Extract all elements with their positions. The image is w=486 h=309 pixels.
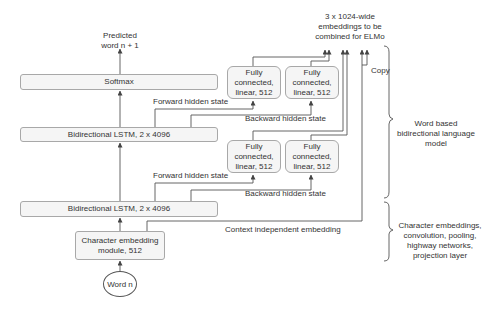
input-word-node: Word n: [103, 271, 137, 297]
bilstm-top-layer: Bidirectional LSTM, 2 x 4096: [20, 127, 218, 142]
fc-top-right-label: Fully connected, linear, 512: [289, 68, 335, 98]
softmax-layer: Softmax: [20, 74, 218, 90]
fc-bottom-left-label: Fully connected, linear, 512: [231, 142, 277, 172]
fc-top-right: Fully connected, linear, 512: [285, 66, 339, 99]
bilstm-bottom-label: Bidirectional LSTM, 2 x 4096: [68, 204, 170, 214]
input-word-label: Word n: [107, 280, 133, 289]
backward-hidden-state-top-label: Backward hidden state: [245, 114, 326, 124]
fc-bottom-right: Fully connected, linear, 512: [285, 140, 339, 173]
backward-hidden-state-bottom-label: Backward hidden state: [245, 189, 326, 199]
forward-hidden-state-bottom-label: Forward hidden state: [153, 171, 228, 181]
context-independent-label: Context independent embedding: [225, 225, 341, 235]
forward-hidden-state-top-label: Forward hidden state: [153, 97, 228, 107]
char-embedding-label: Character embedding module, 512: [80, 236, 160, 256]
fc-bottom-right-label: Fully connected, linear, 512: [289, 142, 335, 172]
fc-top-left: Fully connected, linear, 512: [227, 66, 281, 99]
bilstm-bottom-layer: Bidirectional LSTM, 2 x 4096: [20, 201, 218, 217]
elmo-embeddings-label: 3 x 1024-wide embeddings to be combined …: [310, 12, 390, 42]
fc-top-left-label: Fully connected, linear, 512: [231, 68, 277, 98]
fc-bottom-left: Fully connected, linear, 512: [227, 140, 281, 173]
bilstm-top-label: Bidirectional LSTM, 2 x 4096: [68, 130, 170, 140]
copy-label: Copy: [371, 66, 390, 76]
softmax-label: Softmax: [104, 77, 133, 87]
char-model-brace-label: Character embeddings, convolution, pooli…: [394, 221, 486, 261]
char-embedding-module: Character embedding module, 512: [75, 231, 165, 260]
word-model-brace-label: Word based bidirectional language model: [396, 119, 476, 149]
output-label: Predicted word n + 1: [95, 31, 145, 51]
